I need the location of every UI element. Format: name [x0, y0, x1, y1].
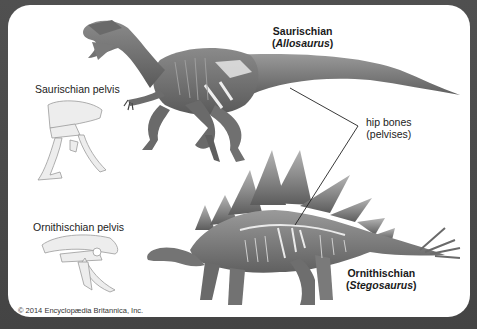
saurischian-pelvis-label: Saurischian pelvis	[35, 83, 120, 95]
allosaurus-genus: Allosaurus	[276, 37, 330, 49]
hip-bones-label: hip bones (pelvises)	[366, 116, 412, 140]
ornithischian-label: Ornithischian (Stegosaurus)	[346, 267, 417, 291]
ornithischian-pelvis-drawing	[42, 235, 118, 292]
saurischian-label: Saurischian (Allosaurus)	[272, 25, 333, 49]
ornithischian-pelvis-label: Ornithischian pelvis	[33, 221, 124, 233]
copyright-credit: © 2014 Encyclopædia Britannica, Inc.	[18, 306, 143, 315]
stegosaurus-genus: Stegosaurus	[350, 279, 414, 291]
image-frame: Saurischian (Allosaurus) hip bones (pelv…	[0, 0, 477, 329]
saurischian-title: Saurischian	[272, 25, 333, 37]
diagram-panel: Saurischian (Allosaurus) hip bones (pelv…	[8, 5, 470, 317]
ornithischian-title: Ornithischian	[346, 267, 417, 279]
saurischian-pelvis-drawing	[38, 101, 106, 180]
